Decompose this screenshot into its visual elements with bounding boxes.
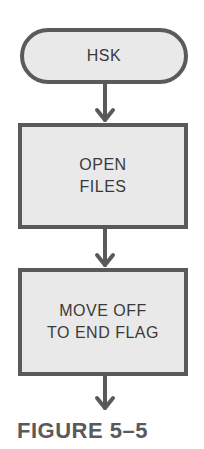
terminator-hsk: HSK: [20, 28, 188, 84]
process-open-files: OPEN FILES: [18, 123, 188, 229]
figure-caption: FIGURE 5–5: [17, 418, 148, 444]
process-move-off-to-end-flag: MOVE OFF TO END FLAG: [18, 268, 188, 376]
node-label: MOVE OFF TO END FLAG: [47, 300, 159, 344]
node-label: HSK: [87, 45, 121, 67]
node-label: OPEN FILES: [79, 154, 126, 198]
